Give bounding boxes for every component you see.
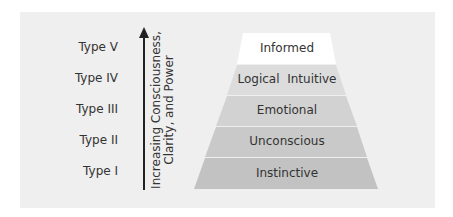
tier-label-emotional: Emotional bbox=[257, 103, 317, 117]
tier-label-instinctive: Instinctive bbox=[256, 166, 318, 180]
tier-label-informed: Informed bbox=[260, 41, 314, 55]
pyramid bbox=[0, 0, 453, 217]
tier-label-unconscious: Unconscious bbox=[249, 134, 324, 148]
tier-label-logical-intuitive: Logical Intuitive bbox=[238, 72, 337, 86]
